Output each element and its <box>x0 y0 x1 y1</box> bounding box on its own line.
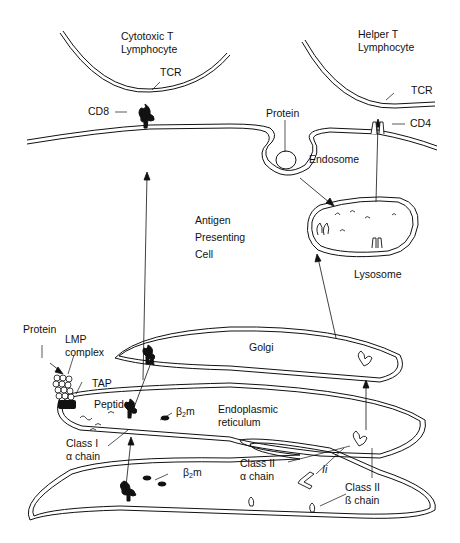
beta2m-lower-label: β2m <box>183 466 202 482</box>
cytotoxic-t-line1: Cytotoxic T <box>121 30 177 43</box>
tap-label: TAP <box>92 377 112 390</box>
peptides-label: Peptides <box>94 398 135 411</box>
beta2m-lower-2 <box>158 482 166 486</box>
class2-alpha-label: Class II α chain <box>240 457 275 483</box>
cd8-label: CD8 <box>88 105 109 118</box>
protein-cytosol-label: Protein <box>23 323 56 336</box>
cytotoxic-t-label: Cytotoxic T Lymphocyte <box>121 30 177 56</box>
lmp-complex-label: LMP complex <box>65 333 104 359</box>
invariant-chain-label: Ii <box>322 463 327 476</box>
mhc-class1-surface <box>139 104 154 128</box>
beta2m-lower-1 <box>143 476 151 480</box>
helper-t-label: Helper T Lymphocyte <box>358 28 414 54</box>
helper-t-line2: Lymphocyte <box>358 41 414 54</box>
endosome-label: Endosome <box>309 153 359 166</box>
mhc-class2-er <box>353 431 367 446</box>
endosome-membrane <box>276 151 296 169</box>
lmp-line2: complex <box>65 346 104 359</box>
tcr-label-right: TCR <box>411 84 433 97</box>
tap-transporter <box>58 400 76 409</box>
helper-t-line1: Helper T <box>358 28 414 41</box>
cd4-label: CD4 <box>410 117 431 130</box>
invariant-chain <box>298 472 314 489</box>
mhc-class2-lysosome-1 <box>317 223 329 235</box>
class2-beta-label: Class II ß chain <box>345 481 380 507</box>
protein-endosome-label: Protein <box>266 107 299 120</box>
mhc-class2-alpha-nascent <box>310 503 315 512</box>
er-label: Endoplasmic reticulum <box>218 403 278 429</box>
tcr-label-left: TCR <box>160 66 182 79</box>
apc-line1: Antigen <box>195 212 245 229</box>
class2a-line1: Class II <box>240 457 275 470</box>
apc-label: Antigen Presenting Cell <box>195 212 245 263</box>
lmp-complex <box>53 375 74 400</box>
mhc-class2-lysosome-2 <box>372 238 382 248</box>
beta-m: m <box>186 405 195 417</box>
beta2m-upper-label: β2m <box>176 405 195 421</box>
beta2m-upper-1 <box>161 416 169 420</box>
class2b-line1: Class II <box>345 481 380 494</box>
beta-m: m <box>193 466 202 478</box>
cytotoxic-t-line2: Lymphocyte <box>121 43 177 56</box>
golgi-label: Golgi <box>249 341 274 354</box>
er-line2: reticulum <box>218 416 278 429</box>
lmp-line1: LMP <box>65 333 104 346</box>
arrow-golgi-to-lysosome <box>318 258 336 338</box>
class1-line2: α chain <box>66 450 100 463</box>
mhc-class2-alpha-nascent-2 <box>249 497 254 506</box>
mhc-class1-nascent <box>120 481 136 501</box>
arrow-endosome-to-lysosome <box>300 178 330 203</box>
lysosome-label: Lysosome <box>354 268 401 281</box>
class2b-line2: ß chain <box>345 494 380 507</box>
class1-alpha-label: Class I α chain <box>66 437 100 463</box>
apc-line3: Cell <box>195 246 245 263</box>
antigen-presentation-diagram: Cytotoxic T Lymphocyte Helper T Lymphocy… <box>0 0 460 543</box>
class2a-line2: α chain <box>240 470 275 483</box>
apc-line2: Presenting <box>195 229 245 246</box>
class1-line1: Class I <box>66 437 100 450</box>
er-line1: Endoplasmic <box>218 403 278 416</box>
mhc-class2-golgi <box>358 351 372 366</box>
